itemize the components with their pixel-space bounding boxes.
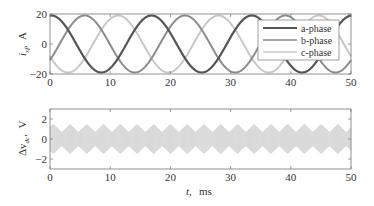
x-tick-label: 10: [105, 171, 117, 183]
bottom-ylabel: Δvdc, V: [16, 121, 31, 157]
legend-label-b: b-phase: [301, 35, 333, 46]
y-tick-label: −2: [35, 153, 47, 165]
x-tick-label: 40: [285, 171, 297, 183]
chart-figure: 01020304050−20020 a-phase b-phase c-phas…: [0, 0, 374, 206]
top-plot: 01020304050−20020 a-phase b-phase c-phas…: [16, 8, 357, 88]
bottom-ylabel-unit: V: [16, 121, 28, 129]
legend: a-phase b-phase c-phase: [258, 20, 339, 60]
y-tick-label: 2: [42, 113, 48, 125]
y-tick-label: 0: [42, 133, 48, 145]
x-tick-label: 50: [346, 171, 358, 183]
x-tick-label: 30: [225, 76, 237, 88]
bottom-ylabel-symbol: Δv: [16, 143, 28, 156]
x-tick-label: 20: [165, 171, 177, 183]
svg-text:Δvdc, V: Δvdc, V: [16, 121, 31, 157]
top-ylabel-unit: A: [16, 32, 28, 40]
x-tick-label: 40: [285, 76, 297, 88]
y-tick-label: 20: [36, 8, 48, 20]
x-tick-label: 30: [225, 171, 237, 183]
y-tick-label: 0: [42, 38, 48, 50]
top-ylabel: ixf, A: [16, 32, 31, 56]
legend-label-a: a-phase: [301, 23, 332, 34]
xlabel-symbol: t,: [186, 185, 192, 197]
x-tick-label: 10: [105, 76, 117, 88]
bottom-plot: 01020304050−202 Δvdc, V t, ms: [16, 109, 357, 197]
legend-label-c: c-phase: [301, 47, 332, 58]
x-tick-label: 0: [47, 171, 53, 183]
svg-text:ixf, A: ixf, A: [16, 32, 31, 56]
x-tick-label: 0: [47, 76, 53, 88]
x-tick-label: 50: [346, 76, 358, 88]
xlabel: t, ms: [186, 185, 212, 197]
y-tick-label: −20: [30, 68, 48, 80]
xlabel-unit: ms: [199, 185, 212, 197]
x-tick-label: 20: [165, 76, 177, 88]
